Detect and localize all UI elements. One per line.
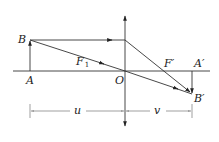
label-F1: F1 [75, 55, 89, 69]
label-A-prime: A′ [193, 57, 205, 70]
label-A: A [25, 74, 34, 87]
label-B: B [17, 33, 26, 46]
label-F-prime: F′ [163, 57, 175, 70]
ray-through-center-emergent [125, 71, 178, 89]
label-u: u [74, 104, 81, 117]
ray-refracted-through-focus [125, 40, 190, 92]
ray-through-center-incident [30, 40, 104, 64]
label-B-prime: B′ [193, 92, 205, 105]
label-v: v [154, 104, 161, 117]
lens-ray-diagram: B A F1 O F′ A′ B′ u v [0, 0, 219, 142]
label-O: O [115, 74, 124, 87]
ray-through-center-mid [102, 64, 125, 72]
